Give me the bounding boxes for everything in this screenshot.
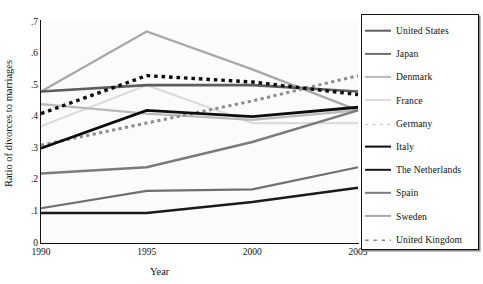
legend-item-united-states[interactable]: United States xyxy=(362,19,478,42)
series-line xyxy=(41,31,358,110)
legend-swatch-icon xyxy=(365,233,391,245)
legend-item-the-netherlands[interactable]: The Netherlands xyxy=(362,158,478,181)
y-tick-label: .4 xyxy=(4,111,38,121)
legend-item-label: The Netherlands xyxy=(396,164,461,175)
legend-item-france[interactable]: France xyxy=(362,89,478,112)
chart-figure: Ratio of divorces to marriages 0.1.2.3.4… xyxy=(0,0,483,284)
plot-area xyxy=(41,22,358,243)
y-tick-label: .7 xyxy=(4,17,38,27)
legend-swatch-icon xyxy=(365,117,391,129)
legend-item-spain[interactable]: Spain xyxy=(362,181,478,204)
legend-item-label: Italy xyxy=(396,141,414,152)
legend-item-italy[interactable]: Italy xyxy=(362,135,478,158)
x-axis-title: Year xyxy=(150,266,169,277)
x-axis-line xyxy=(40,243,359,244)
legend-item-united-kingdom[interactable]: United Kingdom xyxy=(362,228,478,251)
y-tick-label: .1 xyxy=(4,206,38,216)
legend-swatch-icon xyxy=(365,94,391,106)
legend-swatch-icon xyxy=(365,71,391,83)
x-tick-label: 1990 xyxy=(21,247,61,257)
legend-item-label: France xyxy=(396,95,423,106)
series-line xyxy=(41,167,358,208)
legend-swatch-icon xyxy=(365,25,391,37)
y-tick-label: 0 xyxy=(4,238,38,248)
y-tick-label: .3 xyxy=(4,143,38,153)
legend-swatch-icon xyxy=(365,210,391,222)
legend-item-denmark[interactable]: Denmark xyxy=(362,65,478,88)
legend-swatch-icon xyxy=(365,141,391,153)
series-line xyxy=(41,107,358,148)
legend-item-label: United States xyxy=(396,25,449,36)
legend-item-label: United Kingdom xyxy=(396,234,462,245)
legend-item-label: Denmark xyxy=(396,71,432,82)
series-lines xyxy=(41,22,358,243)
legend-item-germany[interactable]: Germany xyxy=(362,112,478,135)
legend-swatch-icon xyxy=(365,164,391,176)
y-axis-tick-labels: 0.1.2.3.4.5.6.7 xyxy=(0,0,38,284)
series-line xyxy=(41,110,358,173)
x-tick-label: 2000 xyxy=(232,247,272,257)
y-tick-label: .5 xyxy=(4,80,38,90)
legend-item-label: Germany xyxy=(396,118,432,129)
legend-item-label: Sweden xyxy=(396,211,427,222)
legend-item-japan[interactable]: Japan xyxy=(362,42,478,65)
legend-swatch-icon xyxy=(365,48,391,60)
legend-item-label: Spain xyxy=(396,187,418,198)
legend-item-sweden[interactable]: Sweden xyxy=(362,205,478,228)
y-tick-label: .2 xyxy=(4,174,38,184)
x-tick-label: 1995 xyxy=(127,247,167,257)
legend-swatch-icon xyxy=(365,187,391,199)
y-tick-label: .6 xyxy=(4,48,38,58)
chart-legend: United StatesJapanDenmarkFranceGermanyIt… xyxy=(361,14,479,250)
legend-item-label: Japan xyxy=(396,48,418,59)
